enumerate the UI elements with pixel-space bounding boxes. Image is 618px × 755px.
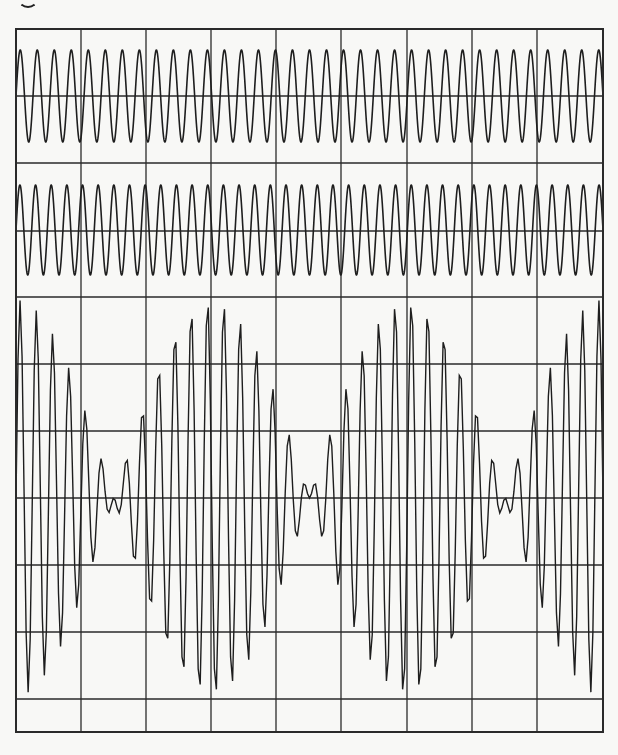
grid-lines (16, 29, 603, 732)
beat-sum-trace (16, 300, 603, 692)
oscilloscope-figure (0, 0, 618, 755)
plot-frame (16, 29, 603, 732)
sine-trace-middle (16, 185, 603, 275)
